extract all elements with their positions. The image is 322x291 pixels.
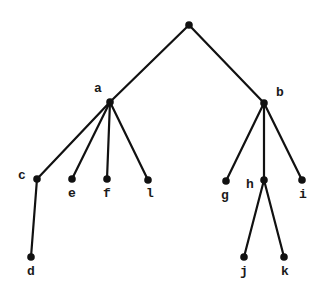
edge-root-b — [189, 25, 264, 103]
node-label-d: d — [27, 264, 35, 279]
node-h — [260, 176, 268, 184]
tree-edges — [31, 25, 302, 257]
edge-a-c — [37, 102, 110, 179]
edge-h-k — [264, 180, 284, 257]
node-label-l: l — [146, 186, 154, 201]
edge-b-g — [226, 103, 264, 181]
edge-a-l — [110, 102, 148, 180]
edge-a-e — [72, 102, 110, 179]
node-label-h: h — [246, 177, 254, 192]
node-j — [240, 253, 248, 261]
node-label-e: e — [68, 186, 76, 201]
node-e — [68, 175, 76, 183]
node-a — [106, 98, 114, 106]
node-label-f: f — [103, 186, 111, 201]
node-i — [298, 176, 306, 184]
edge-b-i — [264, 103, 302, 180]
node-root — [185, 21, 193, 29]
node-k — [280, 253, 288, 261]
node-label-j: j — [240, 264, 248, 279]
edge-c-d — [31, 179, 37, 257]
node-b — [260, 99, 268, 107]
edge-root-a — [110, 25, 189, 102]
node-g — [222, 177, 230, 185]
tree-diagram: abcdeflghijk — [0, 0, 322, 291]
edge-a-f — [107, 102, 110, 179]
node-label-a: a — [94, 81, 102, 96]
node-f — [103, 175, 111, 183]
node-label-k: k — [281, 264, 289, 279]
node-label-b: b — [276, 85, 284, 100]
node-l — [144, 176, 152, 184]
node-c — [33, 175, 41, 183]
node-label-c: c — [18, 168, 26, 183]
node-label-i: i — [299, 187, 307, 202]
node-d — [27, 253, 35, 261]
node-label-g: g — [221, 188, 229, 203]
